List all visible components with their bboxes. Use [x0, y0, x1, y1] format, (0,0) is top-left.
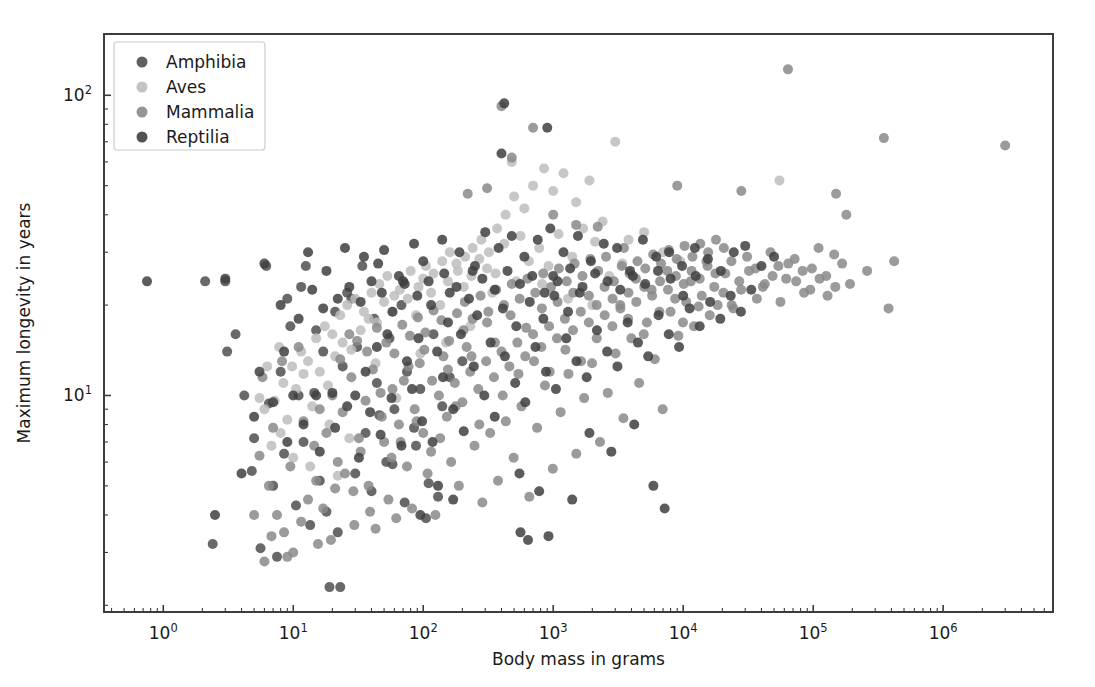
- data-point: [571, 197, 581, 207]
- data-point: [350, 468, 360, 478]
- data-point: [490, 412, 500, 422]
- data-point: [673, 331, 683, 341]
- data-point: [746, 285, 756, 295]
- data-point: [296, 517, 306, 527]
- data-point: [726, 256, 736, 266]
- data-point: [200, 276, 210, 286]
- data-point: [577, 271, 587, 281]
- data-point: [560, 345, 570, 355]
- data-point: [528, 123, 538, 133]
- legend-label-aves: Aves: [166, 77, 206, 97]
- data-point: [640, 279, 650, 289]
- data-point: [491, 268, 501, 278]
- data-point: [394, 271, 404, 281]
- legend-label-amphibia: Amphibia: [166, 52, 246, 72]
- data-point: [277, 356, 287, 366]
- data-point: [691, 271, 701, 281]
- data-point: [567, 495, 577, 505]
- data-point: [327, 329, 337, 339]
- data-point: [634, 378, 644, 388]
- data-point: [463, 189, 473, 199]
- legend-label-reptilia: Reptilia: [166, 127, 230, 147]
- data-point: [386, 453, 396, 463]
- data-point: [335, 582, 345, 592]
- data-point: [529, 356, 539, 366]
- data-point: [469, 361, 479, 371]
- data-point: [357, 261, 367, 271]
- x-tick-label: 102: [409, 621, 438, 643]
- data-point: [490, 285, 500, 295]
- data-point: [287, 361, 297, 371]
- data-point: [231, 329, 241, 339]
- data-point: [350, 390, 360, 400]
- data-point: [690, 243, 700, 253]
- data-point: [327, 388, 337, 398]
- data-point: [387, 307, 397, 317]
- legend-marker-icon: [137, 132, 148, 143]
- data-point: [379, 297, 389, 307]
- data-point: [220, 274, 230, 284]
- data-point: [612, 243, 622, 253]
- data-point: [530, 342, 540, 352]
- data-point: [538, 314, 548, 324]
- data-point: [678, 318, 688, 328]
- data-point: [664, 247, 674, 257]
- data-point: [276, 367, 286, 377]
- data-point: [249, 412, 259, 422]
- data-point: [394, 420, 404, 430]
- data-point: [239, 390, 249, 400]
- data-point: [210, 510, 220, 520]
- data-point: [889, 256, 899, 266]
- data-point: [346, 372, 356, 382]
- data-point: [837, 259, 847, 269]
- data-point: [400, 279, 410, 289]
- data-point: [515, 231, 525, 241]
- data-point: [623, 318, 633, 328]
- data-point: [500, 351, 510, 361]
- data-point: [307, 285, 317, 295]
- data-point: [285, 321, 295, 331]
- legend-marker-icon: [137, 107, 148, 118]
- data-point: [482, 263, 492, 273]
- data-point: [540, 380, 550, 390]
- axis-labels-layer: 100101102103104105106101102Body mass in …: [14, 83, 958, 669]
- data-point: [584, 291, 594, 301]
- data-point: [513, 369, 523, 379]
- data-point: [501, 210, 511, 220]
- data-point: [282, 415, 292, 425]
- data-point: [705, 297, 715, 307]
- data-point: [525, 297, 535, 307]
- data-point: [348, 486, 358, 496]
- data-point: [423, 468, 433, 478]
- data-point: [756, 261, 766, 271]
- data-point: [781, 274, 791, 284]
- data-point: [402, 356, 412, 366]
- data-point: [599, 239, 609, 249]
- data-point: [879, 133, 889, 143]
- data-point: [592, 300, 602, 310]
- data-point: [537, 279, 547, 289]
- data-point: [426, 300, 436, 310]
- data-point: [417, 416, 427, 426]
- data-point: [549, 291, 559, 301]
- data-point: [382, 271, 392, 281]
- data-point: [379, 245, 389, 255]
- data-point: [612, 361, 622, 371]
- data-point: [830, 282, 840, 292]
- data-point: [437, 256, 447, 266]
- data-point: [494, 243, 504, 253]
- plot-canvas: AmphibiaAvesMammaliaReptilia 10010110210…: [0, 0, 1095, 687]
- data-point: [534, 486, 544, 496]
- data-point: [548, 464, 558, 474]
- data-point: [454, 247, 464, 257]
- data-point: [389, 404, 399, 414]
- data-point: [433, 492, 443, 502]
- data-point: [823, 291, 833, 301]
- data-point: [427, 376, 437, 386]
- data-point: [413, 312, 423, 322]
- x-tick-label: 100: [149, 621, 178, 643]
- data-point: [321, 428, 331, 438]
- data-point: [610, 137, 620, 147]
- data-point: [468, 266, 478, 276]
- data-point: [498, 303, 508, 313]
